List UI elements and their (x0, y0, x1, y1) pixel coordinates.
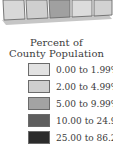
strip-swatch-4 (72, 0, 92, 17)
legend-row: 10.00 to 24.99% (0, 112, 113, 129)
legend-label: 5.00 to 9.99% (56, 99, 113, 109)
legend-swatch-icon (28, 131, 50, 144)
tilted-legend-strip (0, 0, 113, 30)
legend-swatch-icon (28, 63, 50, 76)
legend-title-line-2: County Population (0, 48, 113, 59)
legend-title: Percent of County Population (0, 37, 113, 59)
map-legend-figure: Percent of County Population 0.00 to 1.9… (0, 0, 113, 152)
legend-title-line-1: Percent of (0, 37, 113, 48)
legend-class-list: 0.00 to 1.99% 2.00 to 4.99% 5.00 to 9.99… (0, 61, 113, 146)
legend-swatch-icon (28, 114, 50, 127)
strip-swatch-3 (49, 0, 70, 18)
legend-row: 25.00 to 86.24% (0, 129, 113, 146)
legend-label: 2.00 to 4.99% (56, 82, 113, 92)
legend-swatch-icon (28, 97, 50, 110)
legend-label: 10.00 to 24.99% (56, 116, 113, 126)
strip-swatch-5 (94, 0, 112, 16)
strip-swatch-2 (26, 0, 48, 19)
legend-row: 0.00 to 1.99% (0, 61, 113, 78)
legend-swatch-icon (28, 80, 50, 93)
legend-label: 25.00 to 86.24% (56, 133, 113, 143)
legend-label: 0.00 to 1.99% (56, 65, 113, 75)
legend-row: 5.00 to 9.99% (0, 95, 113, 112)
strip-swatch-1 (3, 0, 25, 20)
legend-row: 2.00 to 4.99% (0, 78, 113, 95)
